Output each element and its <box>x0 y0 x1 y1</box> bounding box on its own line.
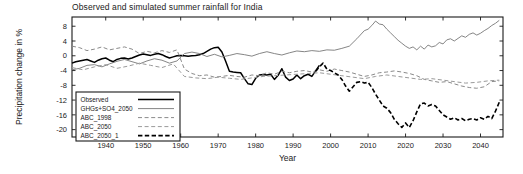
x-tick-label: 1960 <box>172 141 189 150</box>
y-tick-label: -8 <box>60 81 67 90</box>
y-axis-title: Precipitation change in % <box>14 29 24 125</box>
x-tick-label: 2010 <box>360 141 377 150</box>
y-tick-label: 4 <box>63 37 67 46</box>
x-axis-title: Year <box>279 153 296 163</box>
y-tick-label: 8 <box>63 22 67 31</box>
y-tick-label: -16 <box>56 111 67 120</box>
legend-layer: ObservedGHGs+SO4_2050ABC_1998ABC_2050ABC… <box>76 92 180 141</box>
x-tick-label: 2000 <box>322 141 339 150</box>
x-tick-label: 1940 <box>97 141 114 150</box>
legend-label-1: GHGs+SO4_2050 <box>81 105 133 113</box>
x-tick-label: 2040 <box>472 141 489 150</box>
series-line-2 <box>72 46 499 88</box>
legend-label-4: ABC_2050_1 <box>81 132 119 140</box>
x-tick-label: 2020 <box>397 141 414 150</box>
x-tick-label: 1990 <box>285 141 302 150</box>
legend-label-2: ABC_1998 <box>81 114 112 122</box>
chart-plot-area: 840-4-8-12-16-20194019501960197019801990… <box>0 0 523 174</box>
y-tick-label: 0 <box>63 51 67 60</box>
y-tick-label: -20 <box>56 125 67 134</box>
x-tick-label: 1970 <box>210 141 227 150</box>
chart-figure: Observed and simulated summer rainfall f… <box>0 0 523 174</box>
series-line-1 <box>72 20 499 69</box>
legend-label-3: ABC_2050 <box>81 123 112 131</box>
y-tick-label: -4 <box>60 66 67 75</box>
x-tick-label: 1950 <box>135 141 152 150</box>
x-tick-label: 1980 <box>247 141 264 150</box>
legend-label-0: Observed <box>81 96 109 103</box>
y-tick-label: -12 <box>56 96 67 105</box>
x-tick-label: 2030 <box>435 141 452 150</box>
series-line-3 <box>72 63 499 83</box>
